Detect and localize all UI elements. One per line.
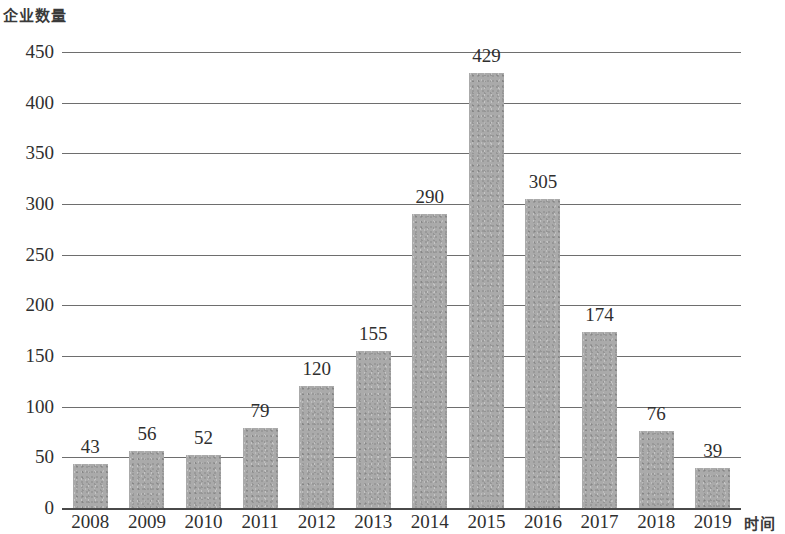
gridline bbox=[62, 103, 741, 104]
bar-value-label: 120 bbox=[282, 359, 352, 378]
bar bbox=[695, 468, 730, 508]
gridline bbox=[62, 356, 741, 357]
bar bbox=[469, 73, 504, 508]
bar-value-label: 52 bbox=[168, 428, 238, 447]
y-axis-tick-label: 300 bbox=[8, 194, 54, 213]
gridline bbox=[62, 153, 741, 154]
y-axis-tick-label: 350 bbox=[8, 143, 54, 162]
bar-value-label: 174 bbox=[565, 305, 635, 324]
y-axis-tick-label: 450 bbox=[8, 42, 54, 61]
bar bbox=[186, 455, 221, 508]
bar-value-label: 429 bbox=[451, 46, 521, 65]
bar bbox=[639, 431, 674, 508]
y-axis-tick-label: 250 bbox=[8, 245, 54, 264]
y-axis-tick-label: 200 bbox=[8, 295, 54, 314]
bar-value-label: 79 bbox=[225, 401, 295, 420]
bar-value-label: 155 bbox=[338, 324, 408, 343]
bar bbox=[243, 428, 278, 508]
bar bbox=[299, 386, 334, 508]
bar-value-label: 76 bbox=[621, 404, 691, 423]
y-axis-tick-labels: 450400350300250200150100500 bbox=[0, 0, 54, 534]
bar-value-label: 39 bbox=[678, 441, 748, 460]
bar-value-label: 305 bbox=[508, 172, 578, 191]
gridline bbox=[62, 255, 741, 256]
x-axis-tick-labels: 2008200920102011201220132014201520162017… bbox=[0, 511, 785, 534]
bar bbox=[129, 451, 164, 508]
x-axis-line bbox=[62, 508, 741, 510]
bar bbox=[525, 199, 560, 508]
bar bbox=[412, 214, 447, 508]
bar bbox=[582, 332, 617, 508]
y-axis-tick-label: 150 bbox=[8, 346, 54, 365]
bar bbox=[356, 351, 391, 508]
y-axis-tick-label: 100 bbox=[8, 397, 54, 416]
y-axis-tick-label: 400 bbox=[8, 93, 54, 112]
x-axis-tick-label: 2019 bbox=[678, 511, 748, 532]
gridline bbox=[62, 305, 741, 306]
gridline bbox=[62, 52, 741, 53]
plot-area: 435652791201552904293051747639 bbox=[62, 52, 741, 508]
bar bbox=[73, 464, 108, 508]
y-axis-tick-label: 50 bbox=[8, 447, 54, 466]
bar-chart: 企业数量 时间 450400350300250200150100500 4356… bbox=[0, 0, 785, 534]
bar-value-label: 290 bbox=[395, 187, 465, 206]
